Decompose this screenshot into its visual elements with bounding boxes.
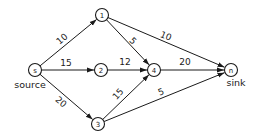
edge-s-to-3 bbox=[40, 74, 93, 119]
edge-capacity-label: 10 bbox=[54, 31, 69, 46]
node-label: 1 bbox=[100, 12, 104, 20]
flow-network-diagram: 1015205101215520 s1234n source sink bbox=[0, 0, 260, 139]
edge-3-to-n bbox=[104, 73, 224, 122]
sink-caption: sink bbox=[226, 77, 246, 88]
edge-capacity-label: 20 bbox=[179, 57, 191, 67]
edges-group bbox=[40, 18, 225, 122]
node-label: 3 bbox=[96, 121, 100, 129]
node-label: s bbox=[33, 67, 37, 75]
node-label: 2 bbox=[99, 67, 103, 75]
node-4: 4 bbox=[148, 64, 161, 77]
node-label: 4 bbox=[152, 67, 157, 75]
edge-capacity-label: 10 bbox=[159, 29, 174, 43]
node-1: 1 bbox=[96, 9, 109, 22]
edge-capacity-label: 5 bbox=[156, 86, 165, 97]
edge-capacity-label: 12 bbox=[119, 57, 130, 67]
edge-labels-group: 1015205101215520 bbox=[53, 29, 191, 109]
node-label: n bbox=[229, 67, 233, 75]
source-caption: source bbox=[14, 79, 46, 90]
edge-capacity-label: 5 bbox=[127, 35, 138, 46]
edge-capacity-label: 15 bbox=[60, 58, 71, 68]
node-s: s bbox=[29, 64, 42, 77]
node-n: n bbox=[225, 64, 238, 77]
node-2: 2 bbox=[95, 64, 108, 77]
node-3: 3 bbox=[92, 118, 105, 131]
